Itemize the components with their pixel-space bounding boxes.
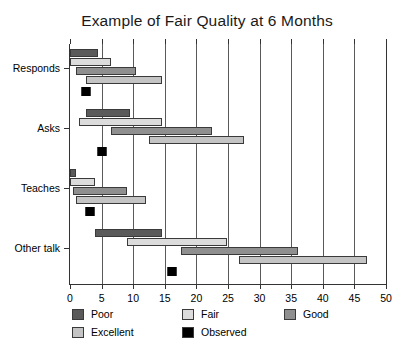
legend-label: Fair: [201, 308, 219, 320]
x-axis-label: 40: [317, 292, 329, 304]
bar-excellent-responds: [86, 76, 162, 84]
x-axis-label: 10: [127, 292, 139, 304]
legend-item-excellent[interactable]: Excellent: [72, 326, 134, 338]
x-axis-label: 0: [67, 292, 73, 304]
y-axis-category-label: Responds: [13, 62, 60, 74]
y-axis-tick: [64, 188, 70, 189]
bar-good-other-talk: [181, 247, 298, 255]
y-axis-tick: [64, 128, 70, 129]
observed-marker-asks: [97, 147, 106, 156]
legend-swatch-excellent-icon: [72, 327, 84, 338]
y-axis-category-label: Asks: [37, 122, 60, 134]
x-axis-tick-top: [165, 39, 166, 44]
chart-legend: PoorFairGoodExcellentObserved: [0, 306, 414, 350]
x-axis-tick: [323, 284, 324, 289]
observed-marker-other-talk: [168, 267, 177, 276]
legend-label: Poor: [91, 308, 113, 320]
x-axis-tick: [386, 284, 387, 289]
bar-good-asks: [111, 127, 212, 135]
legend-label: Good: [303, 308, 329, 320]
x-axis-tick: [354, 284, 355, 289]
bar-fair-other-talk: [127, 238, 227, 246]
x-axis-label: 20: [191, 292, 203, 304]
x-axis-tick-top: [323, 39, 324, 44]
observed-marker-teaches: [86, 207, 95, 216]
x-axis-label: 25: [222, 292, 234, 304]
legend-item-fair[interactable]: Fair: [182, 308, 219, 320]
legend-swatch-good-icon: [284, 309, 296, 320]
x-axis-label: 5: [99, 292, 105, 304]
x-axis-tick-top: [386, 39, 387, 44]
gridline: [323, 44, 324, 284]
y-axis-category-label: Teaches: [21, 182, 60, 194]
x-axis-label: 50: [380, 292, 392, 304]
y-axis-tick: [64, 248, 70, 249]
chart-container: Example of Fair Quality at 6 Months 0510…: [0, 0, 414, 360]
gridline: [165, 44, 166, 284]
x-axis-tick: [260, 284, 261, 289]
legend-label: Observed: [201, 326, 247, 338]
x-axis-tick-top: [133, 39, 134, 44]
x-axis-tick-top: [102, 39, 103, 44]
bar-poor-other-talk: [95, 229, 161, 237]
x-axis-tick-top: [70, 39, 71, 44]
x-axis-label: 15: [159, 292, 171, 304]
legend-item-poor[interactable]: Poor: [72, 308, 113, 320]
y-axis-tick: [64, 68, 70, 69]
x-axis-label: 30: [254, 292, 266, 304]
x-axis-tick-top: [228, 39, 229, 44]
bar-excellent-asks: [149, 136, 244, 144]
x-axis-tick: [133, 284, 134, 289]
bar-fair-teaches: [70, 178, 95, 186]
x-axis-tick: [291, 284, 292, 289]
gridline: [354, 44, 355, 284]
bar-fair-responds: [70, 58, 111, 66]
legend-swatch-fair-icon: [182, 309, 194, 320]
bar-poor-asks: [86, 109, 130, 117]
bar-fair-asks: [79, 118, 161, 126]
x-axis-tick: [228, 284, 229, 289]
legend-label: Excellent: [91, 326, 134, 338]
bar-excellent-teaches: [76, 196, 146, 204]
x-axis-tick-top: [196, 39, 197, 44]
x-axis-tick: [165, 284, 166, 289]
chart-title: Example of Fair Quality at 6 Months: [0, 12, 414, 30]
bar-poor-teaches: [70, 169, 76, 177]
x-axis-tick-top: [260, 39, 261, 44]
x-axis-tick: [102, 284, 103, 289]
observed-marker-responds: [81, 87, 90, 96]
bar-poor-responds: [70, 49, 98, 57]
bar-good-teaches: [73, 187, 127, 195]
plot-area: 05101520253035404550RespondsAsksTeachesO…: [69, 44, 387, 285]
bar-good-responds: [76, 67, 136, 75]
y-axis-category-label: Other talk: [14, 242, 60, 254]
bar-excellent-other-talk: [239, 256, 367, 264]
legend-swatch-observed-icon: [182, 327, 194, 338]
x-axis-tick: [70, 284, 71, 289]
x-axis-tick: [196, 284, 197, 289]
legend-swatch-poor-icon: [72, 309, 84, 320]
x-axis-tick-top: [291, 39, 292, 44]
x-axis-label: 45: [349, 292, 361, 304]
x-axis-label: 35: [285, 292, 297, 304]
x-axis-tick-top: [354, 39, 355, 44]
legend-item-observed[interactable]: Observed: [182, 326, 247, 338]
legend-item-good[interactable]: Good: [284, 308, 329, 320]
